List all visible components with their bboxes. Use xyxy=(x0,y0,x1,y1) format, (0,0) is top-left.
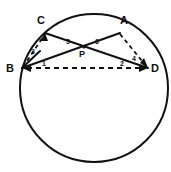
angle-label-1: 1 xyxy=(42,60,46,67)
angle-label-4: 4 xyxy=(132,55,136,62)
angle-label-5: 5 xyxy=(66,38,70,45)
vertex-label-b: B xyxy=(6,62,14,74)
angle-label-6: 6 xyxy=(95,38,99,45)
chord-ab xyxy=(22,33,120,68)
circle-outline xyxy=(20,14,168,162)
angle-label-3: 3 xyxy=(31,48,35,55)
angle-label-2: 2 xyxy=(120,60,124,67)
vertex-label-c: C xyxy=(37,14,45,26)
geometry-diagram: C A B D P 1 2 3 4 5 6 xyxy=(0,0,171,172)
vertex-label-d: D xyxy=(151,62,159,74)
vertex-label-a: A xyxy=(120,14,128,26)
geometry-figure: C A B D P 1 2 3 4 5 6 xyxy=(0,0,171,172)
vertex-label-p: P xyxy=(79,49,85,59)
